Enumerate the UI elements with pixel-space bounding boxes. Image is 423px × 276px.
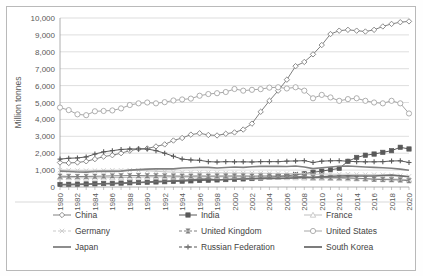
marker-circle bbox=[354, 96, 359, 101]
legend-label: India bbox=[201, 210, 220, 220]
x-tick-label: 2012 bbox=[335, 192, 344, 210]
marker-circle bbox=[101, 108, 106, 113]
marker-plus bbox=[101, 149, 106, 154]
marker-square bbox=[381, 150, 385, 154]
x-tick-label: 1996 bbox=[196, 192, 205, 210]
marker-plus bbox=[276, 159, 281, 164]
marker-diamond bbox=[398, 20, 403, 25]
marker-plus bbox=[58, 157, 63, 162]
legend-label: China bbox=[75, 210, 97, 220]
marker-square bbox=[311, 170, 315, 174]
marker-plus bbox=[293, 158, 298, 163]
marker-plus bbox=[319, 159, 324, 164]
legend-label: France bbox=[326, 210, 353, 220]
marker-square bbox=[354, 155, 358, 159]
marker-circle bbox=[372, 100, 377, 105]
marker-plus bbox=[267, 159, 272, 164]
marker-circle bbox=[127, 102, 132, 107]
marker-circle bbox=[258, 87, 263, 92]
legend-item-germany[interactable]: Germany bbox=[53, 226, 111, 236]
marker-plus bbox=[75, 155, 80, 160]
x-tick-label: 1982 bbox=[73, 192, 82, 210]
x-tick-label: 1990 bbox=[143, 192, 152, 210]
marker-circle bbox=[75, 112, 80, 117]
marker-plus bbox=[92, 152, 97, 157]
marker-plus bbox=[337, 158, 342, 163]
y-tick-label: 7,000 bbox=[35, 65, 56, 74]
y-tick-label: 4,000 bbox=[35, 115, 56, 124]
marker-circle bbox=[284, 86, 289, 91]
line-chart: 01,0002,0003,0004,0005,0006,0007,0008,00… bbox=[7, 7, 417, 272]
marker-circle bbox=[136, 101, 141, 106]
marker-square bbox=[389, 148, 393, 152]
marker-plus bbox=[110, 148, 115, 153]
marker-circle bbox=[206, 91, 211, 96]
marker-circle bbox=[363, 98, 368, 103]
y-tick-label: 3,000 bbox=[35, 132, 56, 141]
marker-plus bbox=[249, 159, 254, 164]
marker-circle bbox=[214, 91, 219, 96]
marker-plus bbox=[284, 159, 289, 164]
y-tick-label: 0 bbox=[51, 183, 56, 192]
legend-item-russian-federation[interactable]: Russian Federation bbox=[179, 242, 275, 252]
x-tick-label: 2010 bbox=[318, 192, 327, 210]
marker-diamond bbox=[171, 138, 176, 143]
marker-plus bbox=[153, 148, 158, 153]
marker-square bbox=[372, 152, 376, 156]
marker-diamond bbox=[232, 130, 237, 135]
y-tick-label: 5,000 bbox=[35, 99, 56, 108]
x-tick-label: 1992 bbox=[161, 192, 170, 210]
marker-plus bbox=[186, 245, 191, 250]
chart-container: 01,0002,0003,0004,0005,0006,0007,0008,00… bbox=[6, 6, 416, 271]
marker-circle bbox=[302, 88, 307, 93]
marker-square bbox=[186, 213, 190, 217]
marker-square bbox=[407, 147, 411, 151]
marker-diamond bbox=[380, 24, 385, 29]
marker-plus bbox=[180, 157, 185, 162]
series-japan bbox=[60, 166, 409, 172]
marker-plus bbox=[241, 159, 246, 164]
legend-item-japan[interactable]: Japan bbox=[53, 242, 98, 252]
x-tick-label: 1998 bbox=[213, 192, 222, 210]
marker-circle bbox=[328, 95, 333, 100]
marker-circle bbox=[249, 87, 254, 92]
marker-diamond bbox=[162, 142, 167, 147]
x-tick-label: 1994 bbox=[178, 192, 187, 210]
marker-circle bbox=[57, 105, 62, 110]
series-line bbox=[60, 166, 409, 172]
y-tick-label: 2,000 bbox=[35, 149, 56, 158]
marker-circle bbox=[66, 108, 71, 113]
marker-circle bbox=[380, 101, 385, 106]
marker-plus bbox=[215, 159, 220, 164]
legend-label: Germany bbox=[75, 226, 111, 236]
marker-circle bbox=[319, 92, 324, 97]
legend-item-united-states[interactable]: United States bbox=[304, 226, 377, 236]
screenshot-frame: 01,0002,0003,0004,0005,0006,0007,0008,00… bbox=[0, 0, 423, 276]
marker-plus bbox=[328, 158, 333, 163]
marker-circle bbox=[232, 86, 237, 91]
marker-diamond bbox=[406, 19, 411, 24]
marker-diamond bbox=[293, 63, 298, 68]
legend-label: Japan bbox=[75, 242, 98, 252]
marker-diamond bbox=[363, 29, 368, 34]
legend-item-france[interactable]: France bbox=[304, 210, 353, 220]
y-tick-label: 10,000 bbox=[31, 14, 56, 23]
legend-item-united-kingdom[interactable]: United Kingdom bbox=[179, 226, 261, 236]
marker-diamond bbox=[75, 160, 80, 165]
x-tick-label: 2004 bbox=[265, 192, 274, 210]
marker-diamond bbox=[214, 133, 219, 138]
marker-circle bbox=[118, 106, 123, 111]
legend-item-south-korea[interactable]: South Korea bbox=[304, 242, 374, 252]
marker-diamond bbox=[59, 212, 64, 217]
marker-plus bbox=[407, 160, 412, 165]
marker-diamond bbox=[197, 131, 202, 136]
x-tick-label: 2008 bbox=[300, 192, 309, 210]
y-tick-label: 6,000 bbox=[35, 82, 56, 91]
marker-circle bbox=[162, 100, 167, 105]
marker-diamond bbox=[223, 131, 228, 136]
marker-circle bbox=[310, 96, 315, 101]
marker-plus bbox=[206, 159, 211, 164]
x-tick-label: 2014 bbox=[353, 192, 362, 210]
marker-circle bbox=[389, 98, 394, 103]
x-tick-label: 2002 bbox=[248, 192, 257, 210]
